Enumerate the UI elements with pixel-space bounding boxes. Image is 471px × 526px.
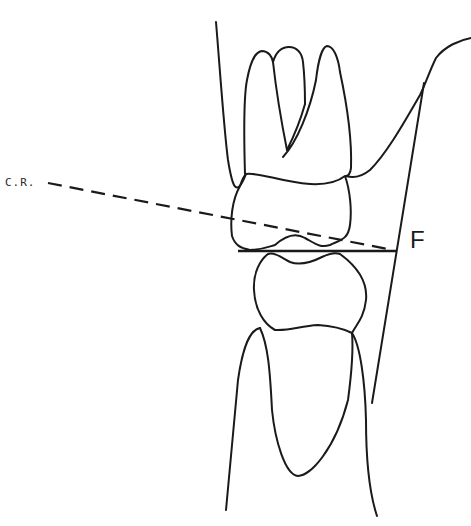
upper-left-boundary-line	[216, 22, 246, 188]
upper-molar-mesial-root	[244, 51, 273, 174]
upper-right-gingiva-curve	[346, 38, 471, 177]
lower-premolar-crown	[254, 253, 366, 333]
dental-diagram: C.R. F	[0, 0, 471, 526]
lower-right-boundary-line	[352, 333, 377, 516]
centric-relation-label: C.R.	[5, 176, 36, 189]
upper-molar-middle-root	[273, 47, 305, 150]
upper-molar-root-furcation	[283, 46, 351, 176]
lower-premolar-root	[260, 328, 352, 476]
centric-relation-dashed-line	[48, 183, 393, 250]
diagram-svg	[0, 0, 471, 526]
lower-left-boundary-line	[226, 328, 260, 510]
reference-point-label: F	[410, 226, 425, 254]
